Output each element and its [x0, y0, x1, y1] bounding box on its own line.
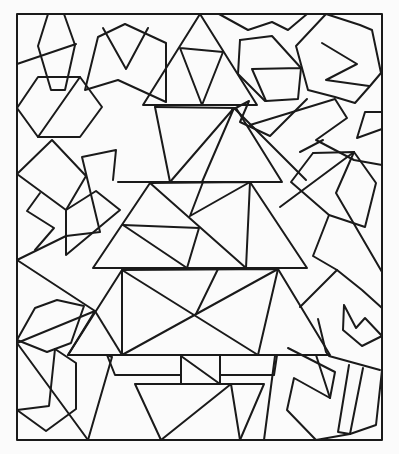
pot-trap-a [161, 384, 240, 440]
left-bottom-kite [17, 349, 55, 410]
tree-tier-3-b [123, 225, 187, 268]
v-shape [103, 28, 148, 69]
right-bars [338, 365, 363, 434]
zig-left [27, 193, 54, 250]
fan-left-b [17, 260, 95, 311]
coloring-page [0, 0, 399, 454]
tree-tier-2-b [170, 108, 234, 182]
tree-tier-2 [118, 107, 282, 182]
pot-left-tri [88, 355, 112, 440]
right-diag [336, 152, 382, 272]
zig-top [219, 14, 307, 30]
hex-left-diag [38, 77, 80, 137]
pot-trap [135, 384, 264, 440]
kite-top-left [38, 14, 75, 90]
right-bars-b [350, 370, 382, 434]
pot-right-bar [264, 356, 275, 440]
e-hex [296, 14, 381, 103]
line-right-b [300, 140, 323, 152]
quad-left [17, 140, 86, 210]
hex-top-left [85, 24, 166, 102]
tree-tier-4-b [95, 311, 122, 355]
right-zig-b [337, 270, 382, 308]
right-zig [300, 215, 337, 307]
line-art-drawing [0, 0, 399, 454]
right-hex-b [343, 305, 382, 346]
pot-diag [181, 356, 220, 384]
pot-left [107, 355, 181, 375]
tree-tier-3-a [123, 225, 199, 268]
tree-tier-1 [143, 14, 257, 105]
left-z [17, 349, 76, 431]
pot-right [220, 355, 277, 375]
e-shape [322, 43, 369, 86]
line-tl [17, 44, 76, 64]
tree-tier-2-a [155, 107, 170, 182]
line-right-a [250, 99, 382, 165]
right-low [318, 319, 380, 370]
small-right [357, 112, 382, 138]
tree-tier-3-c [150, 182, 250, 268]
tree-tier-4-a [122, 269, 278, 355]
tree-tier-1-inner [180, 48, 223, 105]
